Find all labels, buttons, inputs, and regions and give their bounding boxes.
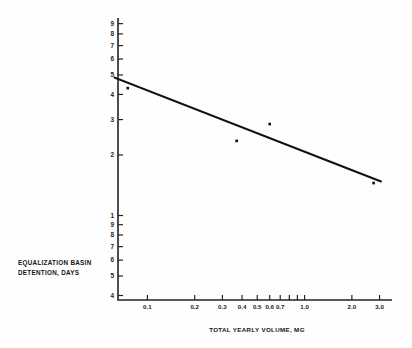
y-tick-label: 4 bbox=[110, 91, 114, 98]
y-tick-label: 8 bbox=[110, 231, 114, 238]
y-tick-label: 4 bbox=[110, 292, 114, 299]
x-tick-label: 0.2 bbox=[190, 303, 199, 310]
y-axis-title: EQUALIZATION BASIN DETENTION, DAYS bbox=[18, 258, 92, 277]
y-tick-label: 7 bbox=[110, 42, 114, 49]
x-tick-label: 1.0 bbox=[300, 303, 309, 310]
y-tick-label: 5 bbox=[110, 272, 114, 279]
y-tick-label: 9 bbox=[110, 20, 114, 27]
y-tick-label: 3 bbox=[110, 116, 114, 123]
y-tick-label: 7 bbox=[110, 243, 114, 250]
regression-line bbox=[115, 78, 381, 182]
plot-area: 0.10.20.30.40.50.60.71.02.03.0 987654321… bbox=[0, 0, 412, 348]
y-tick-label: 9 bbox=[110, 221, 114, 228]
axes bbox=[118, 18, 392, 300]
x-tick-label: 0.7 bbox=[276, 303, 285, 310]
x-axis-ticks: 0.10.20.30.40.50.60.71.02.03.0 bbox=[143, 295, 384, 310]
x-tick-label: 2.0 bbox=[348, 303, 357, 310]
y-axis-ticks: 987654321987654 bbox=[110, 20, 123, 299]
x-tick-label: 0.4 bbox=[238, 303, 247, 310]
x-tick-label: 0.1 bbox=[143, 303, 152, 310]
x-tick-label: 0.5 bbox=[253, 303, 262, 310]
chart-figure: EQUALIZATION BASIN DETENTION, DAYS 0.10.… bbox=[0, 0, 412, 348]
y-tick-label: 6 bbox=[110, 256, 114, 263]
y-tick-label: 8 bbox=[110, 30, 114, 37]
data-point-marker bbox=[268, 123, 271, 126]
y-tick-label: 6 bbox=[110, 55, 114, 62]
x-tick-label: 3.0 bbox=[375, 303, 384, 310]
data-point-marker bbox=[126, 87, 129, 90]
data-point-marker bbox=[372, 182, 375, 185]
x-tick-label: 0.3 bbox=[218, 303, 227, 310]
data-point-marker bbox=[235, 140, 238, 143]
y-tick-label: 1 bbox=[110, 212, 114, 219]
trend-line bbox=[115, 78, 381, 182]
x-axis-title: TOTAL YEARLY VOLUME, MG bbox=[209, 326, 305, 333]
x-tick-label: 0.6 bbox=[265, 303, 274, 310]
data-points bbox=[126, 87, 374, 185]
y-tick-label: 2 bbox=[110, 151, 114, 158]
